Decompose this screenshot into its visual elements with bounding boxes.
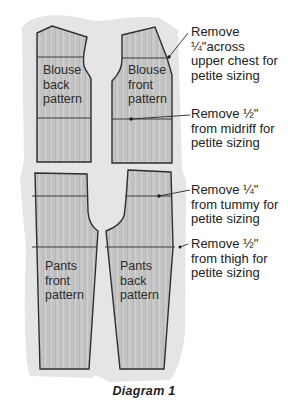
annotation-upper-chest: Remove ¼"across upper chest for petite s…	[191, 25, 278, 83]
diagram-caption: Diagram 1	[0, 384, 288, 398]
annotation-tummy: Remove ¼" from tummy for petite sizing	[191, 183, 278, 227]
pants-back-label: Pants back pattern	[120, 259, 159, 303]
pants-front-label: Pants front pattern	[45, 259, 84, 303]
blouse-front-label: Blouse front pattern	[128, 63, 167, 107]
annotation-midriff: Remove ½" from midriff for petite sizing	[191, 107, 275, 151]
annotation-thigh: Remove ½" from thigh for petite sizing	[191, 237, 268, 281]
blouse-back-label: Blouse back pattern	[43, 63, 82, 107]
